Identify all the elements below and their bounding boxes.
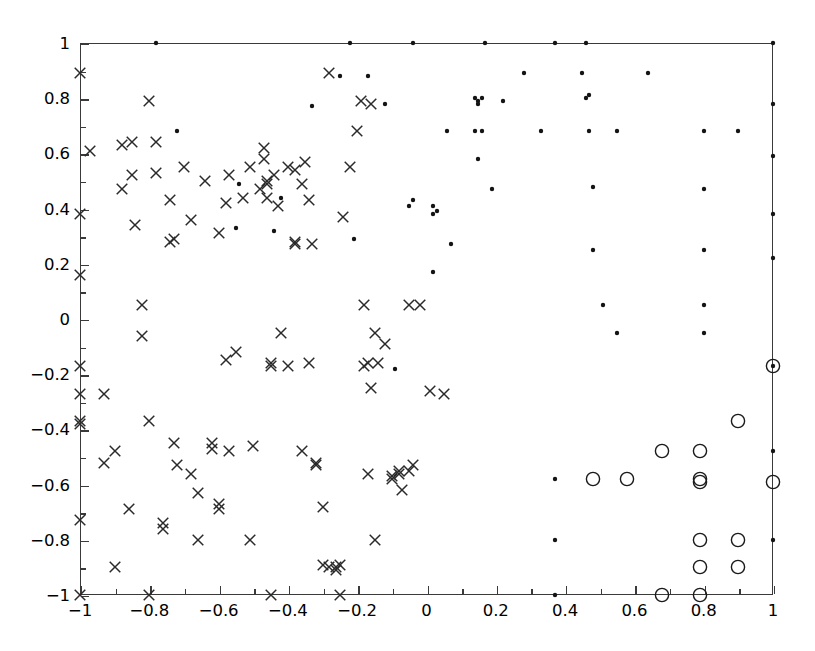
cross-marker — [281, 161, 294, 174]
circle-marker — [693, 472, 708, 487]
cross-marker — [177, 161, 190, 174]
cross-marker — [236, 191, 249, 204]
cross-marker — [143, 415, 156, 428]
cross-marker — [271, 199, 284, 212]
dot-marker — [771, 101, 776, 106]
dot-marker — [552, 537, 557, 542]
cross-marker — [136, 329, 149, 342]
cross-marker — [413, 299, 426, 312]
cross-marker — [74, 415, 87, 428]
cross-marker — [84, 144, 97, 157]
cross-marker — [358, 299, 371, 312]
dot-marker — [587, 129, 592, 134]
cross-marker — [74, 387, 87, 400]
cross-marker — [261, 175, 274, 188]
cross-marker — [74, 359, 87, 372]
circle-marker — [731, 414, 746, 429]
circle-marker — [693, 444, 708, 459]
dot-marker — [771, 449, 776, 454]
cross-marker — [392, 464, 405, 477]
dot-marker — [483, 41, 488, 46]
cross-marker — [98, 387, 111, 400]
cross-marker — [385, 473, 398, 486]
dot-marker — [365, 74, 370, 79]
cross-marker — [361, 467, 374, 480]
dot-marker — [583, 41, 588, 46]
dot-marker — [233, 225, 238, 230]
cross-marker — [264, 589, 277, 602]
dot-marker — [479, 96, 484, 101]
cross-marker — [274, 326, 287, 339]
cross-marker — [157, 522, 170, 535]
cross-marker — [354, 94, 367, 107]
cross-marker — [74, 268, 87, 281]
dot-marker — [473, 96, 478, 101]
cross-marker — [243, 161, 256, 174]
dot-marker — [538, 129, 543, 134]
dot-marker — [552, 477, 557, 482]
cross-marker — [184, 213, 197, 226]
cross-marker — [150, 136, 163, 149]
cross-marker — [219, 354, 232, 367]
cross-marker — [323, 67, 336, 80]
circle-marker — [766, 358, 781, 373]
circle-marker — [693, 588, 708, 603]
cross-marker — [205, 442, 218, 455]
cross-marker — [74, 208, 87, 221]
cross-marker — [229, 346, 242, 359]
cross-marker — [288, 163, 301, 176]
cross-marker — [222, 445, 235, 458]
dot-marker — [701, 330, 706, 335]
dot-marker — [583, 96, 588, 101]
cross-marker — [254, 183, 267, 196]
cross-marker — [365, 97, 378, 110]
cross-marker — [281, 359, 294, 372]
dot-marker — [473, 129, 478, 134]
circle-marker — [731, 560, 746, 575]
cross-marker — [164, 194, 177, 207]
cross-marker — [330, 564, 343, 577]
dot-marker — [552, 41, 557, 46]
cross-marker — [306, 238, 319, 251]
dot-marker — [500, 98, 505, 103]
circle-marker — [693, 532, 708, 547]
dot-marker — [476, 156, 481, 161]
circle-marker — [585, 472, 600, 487]
cross-marker — [309, 456, 322, 469]
cross-marker — [323, 561, 336, 574]
cross-marker — [136, 299, 149, 312]
dot-marker — [615, 129, 620, 134]
scatter-plot-figure: −1−0.8−0.6−0.4−0.200.20.40.60.81 −1−0.8−… — [0, 0, 815, 651]
cross-marker — [247, 439, 260, 452]
cross-marker — [167, 437, 180, 450]
dot-marker — [771, 537, 776, 542]
dot-marker — [272, 228, 277, 233]
cross-marker — [222, 169, 235, 182]
dot-marker — [310, 104, 315, 109]
dot-marker — [479, 129, 484, 134]
cross-marker — [243, 533, 256, 546]
dot-marker — [431, 203, 436, 208]
cross-marker — [108, 561, 121, 574]
cross-marker — [212, 227, 225, 240]
cross-marker — [365, 382, 378, 395]
dot-marker — [771, 363, 776, 368]
dot-marker — [445, 129, 450, 134]
cross-marker — [288, 238, 301, 251]
cross-marker — [74, 417, 87, 430]
cross-marker — [337, 210, 350, 223]
cross-marker — [385, 470, 398, 483]
cross-marker — [268, 169, 281, 182]
cross-marker — [302, 357, 315, 370]
cross-marker — [361, 357, 374, 370]
cross-marker — [129, 219, 142, 232]
circle-marker — [620, 472, 635, 487]
cross-marker — [74, 67, 87, 80]
dot-marker — [431, 270, 436, 275]
dot-marker — [175, 129, 180, 134]
circle-marker — [731, 532, 746, 547]
dot-marker — [476, 101, 481, 106]
dot-marker — [351, 236, 356, 241]
dot-marker — [431, 212, 436, 217]
cross-marker — [423, 384, 436, 397]
